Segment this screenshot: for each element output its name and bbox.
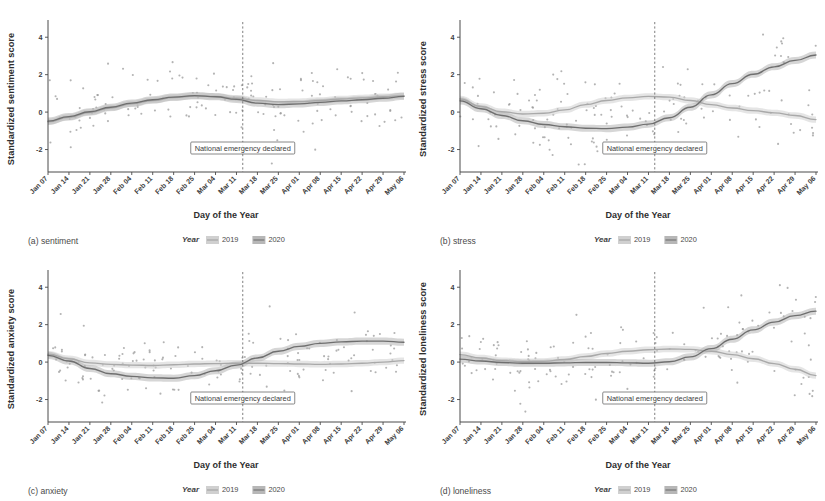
x-tick-label: Jan 07 — [28, 175, 48, 195]
x-tick-label: Feb 04 — [112, 175, 133, 196]
x-tick-label: Mar 11 — [629, 175, 649, 195]
x-tick-label: Apr 22 — [342, 425, 363, 446]
y-axis-title: Standardized sentiment score — [6, 33, 16, 165]
x-tick-label: Mar 25 — [670, 425, 691, 446]
x-tick-labels: Jan 07Jan 14Jan 21Jan 28Feb 04Feb 11Feb … — [440, 422, 817, 447]
x-tick-label: Jan 28 — [91, 175, 111, 195]
y-tick-label: 4 — [39, 283, 43, 292]
x-tick-label: Feb 11 — [545, 425, 565, 445]
x-tick-label: Jan 14 — [461, 425, 481, 445]
legend-label-2019: 2019 — [634, 235, 650, 244]
y-axis-title: Standardized loneliness score — [418, 282, 428, 416]
x-tick-label: Apr 01 — [280, 425, 301, 446]
x-tick-label: Jan 21 — [70, 175, 90, 195]
x-tick-label: Apr 08 — [301, 425, 322, 446]
figure-four-panel-timeseries: National emergency declared420-2Jan 07Ja… — [0, 0, 825, 501]
x-tick-label: Jan 21 — [70, 425, 90, 445]
y-tick-label: -2 — [448, 145, 454, 154]
trend-line-2019 — [48, 354, 404, 365]
x-tick-label: Apr 22 — [754, 175, 775, 196]
legend-label-2020: 2020 — [680, 235, 696, 244]
x-tick-label: Mar 18 — [649, 425, 670, 446]
x-tick-label: Feb 18 — [566, 175, 587, 196]
x-tick-label: Jan 07 — [440, 175, 460, 195]
y-tick-label: 0 — [39, 108, 43, 117]
x-tick-label: Mar 04 — [608, 175, 629, 196]
panel-caption: (a) sentiment — [28, 236, 79, 246]
x-tick-label: Apr 01 — [692, 175, 713, 196]
x-tick-label: Apr 22 — [342, 175, 363, 196]
legend-label-2020: 2020 — [680, 485, 696, 494]
x-tick-labels: Jan 07Jan 14Jan 21Jan 28Feb 04Feb 11Feb … — [28, 422, 405, 447]
legend: Year20192020 — [594, 235, 697, 244]
x-tick-label: Apr 15 — [734, 175, 755, 196]
y-tick-label: 2 — [39, 70, 43, 79]
x-tick-label: Apr 29 — [363, 425, 384, 446]
x-tick-label: Feb 04 — [524, 425, 545, 446]
x-tick-label: Apr 01 — [692, 425, 713, 446]
x-tick-label: Jan 07 — [28, 425, 48, 445]
x-tick-label: Apr 01 — [280, 175, 301, 196]
x-tick-label: Feb 04 — [524, 175, 545, 196]
legend-title: Year — [594, 485, 612, 494]
x-tick-label: Jan 21 — [482, 175, 502, 195]
x-tick-label: Feb 25 — [587, 175, 608, 196]
x-tick-labels: Jan 07Jan 14Jan 21Jan 28Feb 04Feb 11Feb … — [28, 172, 405, 197]
y-tick-label: 4 — [451, 283, 455, 292]
x-tick-label: Jan 07 — [440, 425, 460, 445]
x-tick-label: Feb 25 — [587, 425, 608, 446]
trend-line-2020 — [460, 311, 816, 363]
x-tick-label: Mar 18 — [649, 175, 670, 196]
x-tick-label: Mar 04 — [608, 425, 629, 446]
panel-caption: (d) loneliness — [440, 486, 491, 496]
panel-caption: (b) stress — [440, 236, 476, 246]
legend-label-2020: 2020 — [268, 235, 284, 244]
x-tick-label: Apr 15 — [322, 425, 343, 446]
x-tick-label: Mar 11 — [629, 425, 649, 445]
y-tick-label: 0 — [451, 358, 455, 367]
y-tick-label: 2 — [39, 320, 43, 329]
confidence-ribbon-2020 — [460, 51, 816, 132]
x-tick-label: Feb 25 — [175, 175, 196, 196]
panel-c-anxiety: National emergency declared420-2Jan 07Ja… — [0, 250, 412, 501]
x-tick-label: Apr 15 — [734, 425, 755, 446]
x-tick-label: Jan 14 — [49, 425, 69, 445]
x-tick-label: Apr 29 — [775, 175, 796, 196]
legend: Year20192020 — [594, 485, 697, 494]
y-tick-label: 2 — [451, 320, 455, 329]
scatter-points — [52, 305, 398, 403]
x-tick-label: Jan 14 — [49, 175, 69, 195]
y-tick-label: 2 — [451, 70, 455, 79]
legend-label-2020: 2020 — [268, 485, 284, 494]
x-tick-label: Apr 22 — [754, 425, 775, 446]
x-tick-label: Mar 04 — [196, 425, 217, 446]
legend-label-2019: 2019 — [222, 235, 238, 244]
legend-title: Year — [182, 485, 200, 494]
y-tick-label: 4 — [39, 33, 43, 42]
legend: Year20192020 — [182, 235, 285, 244]
y-tick-label: 0 — [39, 358, 43, 367]
x-tick-label: Mar 25 — [258, 425, 279, 446]
x-tick-label: Feb 11 — [133, 175, 153, 195]
x-tick-label: Apr 08 — [713, 425, 734, 446]
x-tick-label: Feb 25 — [175, 425, 196, 446]
y-axis-title: Standardized anxiety score — [6, 289, 16, 409]
panel-a-sentiment: National emergency declared420-2Jan 07Ja… — [0, 0, 412, 250]
x-tick-label: Feb 18 — [154, 175, 175, 196]
x-tick-label: Feb 18 — [566, 425, 587, 446]
panel-caption: (c) anxiety — [28, 486, 68, 496]
y-tick-label: -2 — [448, 395, 454, 404]
x-tick-label: Mar 18 — [237, 175, 258, 196]
x-tick-label: Mar 11 — [217, 175, 237, 195]
x-tick-labels: Jan 07Jan 14Jan 21Jan 28Feb 04Feb 11Feb … — [440, 172, 817, 197]
x-tick-label: Apr 08 — [301, 175, 322, 196]
x-tick-label: May 06 — [795, 425, 817, 447]
y-tick-label: 0 — [451, 108, 455, 117]
x-tick-label: May 06 — [383, 425, 405, 447]
x-tick-label: Feb 11 — [133, 425, 153, 445]
legend-title: Year — [594, 235, 612, 244]
x-tick-label: Mar 18 — [237, 425, 258, 446]
x-axis-title: Day of the Year — [194, 210, 259, 220]
x-axis-title: Day of the Year — [194, 460, 259, 470]
annotation-label: National emergency declared — [195, 144, 291, 153]
